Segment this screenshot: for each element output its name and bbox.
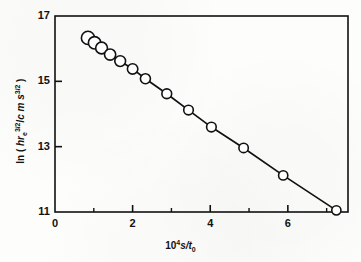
y-tick-label: 11 xyxy=(34,206,50,217)
y-axis-ticks xyxy=(55,81,62,146)
data-point-marker xyxy=(115,56,126,67)
x-axis-title: 104s/t0 xyxy=(0,239,361,253)
data-point-marker xyxy=(207,122,217,132)
data-point-marker xyxy=(140,74,150,84)
x-tick-label: 2 xyxy=(123,218,143,229)
data-point-marker xyxy=(332,206,341,215)
x-tick-label: 6 xyxy=(278,218,298,229)
y-axis-title: ln ( hre3/2/c m s3/2 ) xyxy=(14,46,28,196)
y-axis-title-text: ln ( hre3/2/c m s3/2 ) xyxy=(15,79,26,164)
data-point-marker xyxy=(127,64,137,74)
x-tick-label: 4 xyxy=(200,218,220,229)
data-point-marker xyxy=(239,143,248,152)
data-point-marker xyxy=(184,105,194,115)
y-tick-label: 17 xyxy=(34,10,50,21)
data-point-marker xyxy=(162,89,172,99)
x-tick-label: 0 xyxy=(45,218,65,229)
y-tick-label: 15 xyxy=(34,75,50,86)
y-tick-label: 13 xyxy=(34,141,50,152)
data-point-marker xyxy=(105,49,116,60)
x-axis-major-ticks xyxy=(133,205,288,212)
x-axis-title-text: 104s/t0 xyxy=(165,240,196,251)
data-point-marker xyxy=(279,171,288,180)
figure-container: 11131517 0246 ln ( hre3/2/c m s3/2 ) 104… xyxy=(0,0,361,262)
